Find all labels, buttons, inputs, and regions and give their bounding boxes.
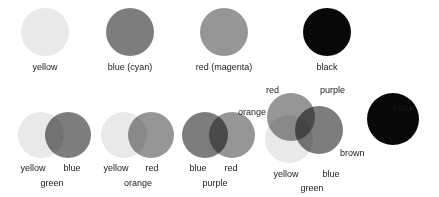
venn-label-yellow-2: yellow	[103, 163, 128, 173]
primary-circle-red	[200, 8, 248, 56]
primary-label-black: black	[316, 62, 337, 72]
venn-label-green-1: green	[40, 178, 63, 188]
venn-yellow-blue	[18, 112, 110, 158]
color-mixing-figure: yellow blue (cyan) red (magenta) black y…	[0, 0, 439, 197]
venn-circle-blue	[45, 112, 91, 158]
venn-circle-red	[128, 112, 174, 158]
venn-label-blue-3: blue	[189, 163, 206, 173]
venn-label-yellow-1: yellow	[20, 163, 45, 173]
venn-label-red-2: red	[145, 163, 158, 173]
primary-circle-yellow	[21, 8, 69, 56]
venn-label-orange-2: orange	[124, 178, 152, 188]
venn3-label-red: red	[266, 85, 279, 95]
venn3-label-brown: brown	[340, 148, 365, 158]
primary-label-blue: blue (cyan)	[108, 62, 153, 72]
venn3-circle-yellow	[265, 115, 313, 163]
primary-label-yellow: yellow	[32, 62, 57, 72]
venn3-label-yellow: yellow	[273, 169, 298, 179]
primary-circle-black	[303, 8, 351, 56]
venn-label-purple-3: purple	[202, 178, 227, 188]
primary-label-red: red (magenta)	[196, 62, 253, 72]
black-swatch-label: black	[393, 103, 414, 113]
venn-yellow-red	[101, 112, 193, 158]
primary-swatch-row: yellow blue (cyan) red (magenta) black	[0, 0, 439, 80]
primary-circle-blue	[106, 8, 154, 56]
venn3-label-purple: purple	[320, 85, 345, 95]
venn3-label-blue: blue	[322, 169, 339, 179]
venn-circle-red	[209, 112, 255, 158]
black-swatch-circle	[367, 93, 419, 145]
venn-blue-red	[182, 112, 274, 158]
venn3-label-green: green	[300, 183, 323, 193]
venn-label-red-3: red	[224, 163, 237, 173]
venn3-label-orange: orange	[238, 107, 266, 117]
venn-label-blue-1: blue	[63, 163, 80, 173]
venn-three-circle	[265, 93, 349, 173]
